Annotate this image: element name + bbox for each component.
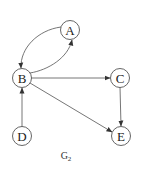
node-a: A (61, 21, 80, 40)
caption-subscript: 2 (68, 155, 72, 163)
node-b-label: B (18, 71, 27, 86)
node-e: E (112, 127, 131, 146)
node-b: B (13, 69, 32, 88)
caption-main: G (61, 150, 68, 161)
node-d: D (13, 127, 32, 146)
edge-b-to-e (30, 83, 112, 132)
node-c-label: C (116, 71, 125, 86)
node-c: C (111, 69, 130, 88)
node-d-label: D (17, 129, 26, 144)
edge-a-to-b (21, 27, 61, 68)
node-a-label: A (65, 23, 75, 38)
node-e-label: E (117, 129, 125, 144)
graph-diagram: A B C D E G2 (0, 0, 143, 170)
edge-c-to-e (120, 87, 121, 126)
edge-b-to-a (30, 40, 72, 73)
graph-caption: G2 (61, 150, 72, 163)
